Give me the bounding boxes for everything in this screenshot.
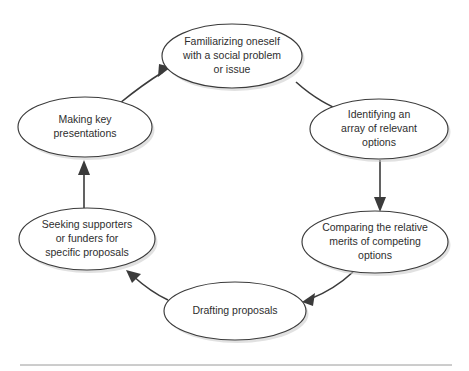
arrow-identifying-to-comparing-head-icon bbox=[374, 197, 386, 212]
node-label-line: array of relevant bbox=[341, 122, 417, 134]
node-label-line: presentations bbox=[53, 127, 116, 139]
node-making-presentations[interactable]: Making keypresentations bbox=[18, 97, 155, 160]
node-identifying-options[interactable]: Identifying anarray of relevantoptions bbox=[310, 99, 451, 162]
node-label-line: Identifying an bbox=[348, 108, 411, 120]
arrow-presentations-to-familiarizing-line bbox=[120, 72, 163, 103]
arrow-seeking-to-presentations bbox=[78, 160, 90, 208]
arrow-seeking-to-presentations-head-icon bbox=[78, 160, 90, 175]
nodes-layer: Familiarizing oneselfwith a social probl… bbox=[18, 24, 451, 343]
node-label-line: Comparing the relative bbox=[322, 221, 428, 233]
node-label-line: specific proposals bbox=[45, 246, 128, 258]
node-label-line: merits of competing bbox=[329, 235, 421, 247]
arrow-presentations-to-familiarizing bbox=[120, 64, 171, 103]
node-label-line: Familiarizing oneself bbox=[184, 35, 280, 47]
node-label-line: options bbox=[358, 249, 392, 261]
node-seeking-supporters[interactable]: Seeking supportersor funders forspecific… bbox=[19, 208, 158, 273]
arrow-comparing-to-drafting-line bbox=[310, 272, 353, 299]
cycle-diagram-canvas: Familiarizing oneselfwith a social probl… bbox=[0, 0, 469, 371]
arrow-comparing-to-drafting bbox=[302, 272, 353, 306]
node-label-line: Drafting proposals bbox=[192, 304, 277, 316]
node-familiarizing-oneself[interactable]: Familiarizing oneselfwith a social probl… bbox=[162, 24, 305, 91]
node-drafting-proposals[interactable]: Drafting proposals bbox=[164, 282, 309, 343]
node-label-line: options bbox=[362, 136, 396, 148]
arrow-drafting-to-seeking-line bbox=[133, 276, 168, 300]
arrow-identifying-to-comparing bbox=[374, 160, 386, 212]
cycle-diagram-figure: Familiarizing oneselfwith a social probl… bbox=[0, 0, 469, 371]
node-label-line: or funders for bbox=[56, 232, 119, 244]
node-label-line: with a social problem bbox=[182, 49, 281, 61]
arrow-drafting-to-seeking bbox=[126, 270, 168, 300]
node-label-line: Seeking supporters bbox=[42, 218, 132, 230]
node-comparing-merits[interactable]: Comparing the relativemerits of competin… bbox=[302, 211, 451, 276]
node-label-line: Making key bbox=[58, 113, 112, 125]
node-label-line: or issue bbox=[214, 63, 251, 75]
